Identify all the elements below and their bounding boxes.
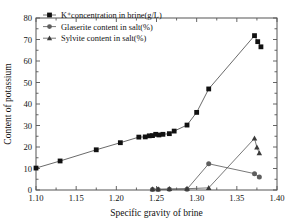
x-tick-label: 1.25 [149,193,164,203]
data-point-marker [185,123,190,128]
chart-canvas: 1.101.151.201.251.301.351.40 01020304050… [0,0,295,224]
y-tick-label: 0 [28,185,32,195]
y-tick-label: 20 [23,142,32,152]
data-point-marker [161,132,166,137]
data-point-marker [257,174,262,179]
y-tick-label: 60 [23,56,32,66]
data-point-marker [257,150,263,155]
legend-label: Glaserite content in salt(%) [61,23,153,32]
x-axis-tick-labels: 1.101.151.201.251.301.351.40 [28,193,284,203]
data-point-marker [172,129,177,134]
data-point-marker [167,131,172,136]
y-tick-label: 40 [23,99,32,109]
data-point-marker [94,147,99,152]
series-3 [150,136,262,192]
series-1 [34,33,264,170]
chart-legend: K⁺concentration in brine(g/L)Glaserite c… [43,11,162,43]
x-axis-label: Specific gravity of brine [110,208,203,218]
legend-label: K⁺concentration in brine(g/L) [61,11,162,20]
x-axis-ticks [36,18,277,190]
y-tick-label: 30 [23,121,32,131]
y-tick-label: 10 [23,164,32,174]
data-point-marker [118,140,123,145]
data-point-marker [254,145,259,150]
x-tick-label: 1.30 [189,193,204,203]
data-point-marker [206,87,211,92]
data-point-marker [252,33,257,38]
y-axis-tick-labels: 01020304050607080 [23,13,32,195]
data-point-marker [194,110,199,115]
chart-figure: 1.101.151.201.251.301.351.40 01020304050… [0,0,295,224]
legend-label: Sylvite content in salt(%) [61,34,147,43]
data-point-marker [136,135,141,140]
legend-item-2[interactable]: Glaserite content in salt(%) [43,23,153,32]
series-2 [150,161,262,192]
data-point-marker [252,136,257,141]
data-point-marker [252,171,257,176]
x-tick-label: 1.35 [229,193,244,203]
y-tick-label: 70 [23,35,32,45]
data-series-group [34,33,264,192]
legend-item-3[interactable]: Sylvite content in salt(%) [43,34,147,43]
y-axis-label: Content of potassium [3,63,13,145]
data-point-marker [255,39,260,44]
legend-item-1[interactable]: K⁺concentration in brine(g/L) [43,11,162,20]
data-point-marker [47,24,52,29]
y-tick-label: 50 [23,78,32,88]
data-point-marker [58,159,63,164]
x-tick-label: 1.15 [69,193,84,203]
data-point-marker [259,44,264,49]
data-point-marker [34,166,39,171]
data-point-marker [47,13,52,18]
plot-frame [36,18,277,190]
y-axis-ticks [36,18,277,190]
y-tick-label: 80 [23,13,32,23]
x-tick-label: 1.40 [269,193,284,203]
data-point-marker [206,161,211,166]
x-tick-label: 1.20 [109,193,124,203]
